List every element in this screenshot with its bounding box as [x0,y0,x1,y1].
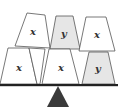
block-label: x [15,62,23,73]
balance-beam [0,84,118,86]
balance-diagram: x y x x x y [0,0,118,107]
block-label: x [57,62,65,73]
block-bottom-4: y [82,52,115,84]
block-label: y [60,28,68,39]
block-bottom-3: x [42,49,79,84]
block-top-1: x [15,13,50,48]
block-label: y [94,63,102,74]
block-label: x [93,29,101,40]
fulcrum-triangle [47,86,69,107]
block-top-2: y [50,16,80,49]
block-top-3: x [79,17,115,51]
block-label: x [29,26,37,37]
